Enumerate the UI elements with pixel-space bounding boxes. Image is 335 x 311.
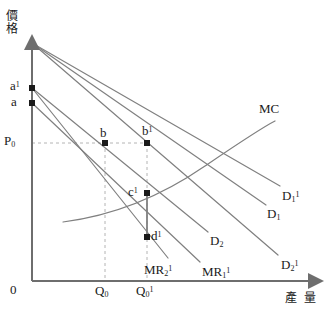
marker-c-prime xyxy=(144,190,150,196)
curve-d1-prime xyxy=(32,43,280,186)
label-c-prime: c1 xyxy=(128,185,138,198)
origin-label: 0 xyxy=(10,283,17,296)
marker-d-prime xyxy=(144,234,150,240)
label-q0: Q0 xyxy=(95,284,108,299)
curve-mc xyxy=(63,121,275,222)
y-axis-title: 價格 xyxy=(4,10,20,35)
label-d-prime: d1 xyxy=(151,229,162,242)
label-p0: P0 xyxy=(4,134,15,149)
marker-b xyxy=(102,140,108,146)
label-b-prime: b1 xyxy=(142,124,153,137)
label-a-prime: a1 xyxy=(10,79,20,92)
label-d2-prime: D21 xyxy=(281,258,298,273)
marker-a xyxy=(29,100,35,106)
label-d2: D2 xyxy=(210,234,223,249)
label-a: a xyxy=(11,95,17,108)
curve-d2-prime xyxy=(32,43,278,255)
label-b: b xyxy=(100,126,107,139)
marker-a-prime xyxy=(29,85,35,91)
curve-d2 xyxy=(32,88,208,232)
x-axis-title: 產 量 xyxy=(285,288,318,305)
label-mc: MC xyxy=(259,102,279,115)
point-markers xyxy=(29,85,150,240)
label-d1: D1 xyxy=(267,207,280,222)
label-mr1-prime: MR11 xyxy=(202,265,230,280)
label-mr2-prime: MR21 xyxy=(144,263,172,278)
guide-lines xyxy=(32,143,147,281)
economics-diagram: 價格 產 量 0 a1 a P0 b b1 c1 d1 Q0 Q01 MC D1… xyxy=(0,0,335,311)
curve-mr1-prime xyxy=(32,103,200,262)
label-d1-prime: D11 xyxy=(282,189,299,204)
marker-b-prime xyxy=(144,140,150,146)
label-q0-prime: Q01 xyxy=(136,284,153,299)
